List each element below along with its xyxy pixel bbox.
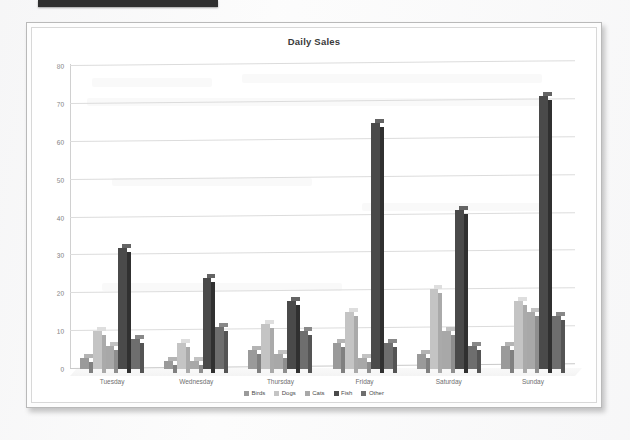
bar-slot: [164, 66, 177, 369]
bar-dogs-wednesday[interactable]: [177, 343, 186, 370]
x-axis-label: Tuesday: [70, 378, 154, 385]
bar-birds-saturday[interactable]: [417, 354, 426, 369]
bar-birds-friday[interactable]: [333, 343, 342, 370]
bar-cats-friday[interactable]: [358, 358, 367, 369]
bar-slot: [248, 66, 261, 369]
bar-birds-wednesday[interactable]: [164, 361, 173, 369]
bar-fish-thursday[interactable]: [287, 301, 296, 369]
bar-set: [248, 66, 312, 369]
legend-item-fish[interactable]: Fish: [334, 390, 353, 396]
legend-swatch-icon: [305, 391, 310, 396]
bar-face: [430, 289, 439, 369]
bar-slot: [215, 66, 228, 369]
bar-cats-wednesday[interactable]: [190, 361, 199, 369]
legend-item-birds[interactable]: Birds: [244, 390, 265, 396]
bar-other-sunday[interactable]: [552, 316, 561, 369]
bar-slot: [384, 66, 397, 369]
bar-dogs-thursday[interactable]: [261, 324, 270, 369]
bar-face: [261, 324, 270, 369]
bar-birds-tuesday[interactable]: [80, 358, 89, 369]
bar-set: [333, 66, 397, 369]
bar-group: Tuesday: [70, 66, 154, 369]
bar-set: [501, 66, 565, 369]
x-axis-label: Sunday: [491, 378, 575, 385]
bar-other-tuesday[interactable]: [131, 339, 140, 369]
bar-cats-tuesday[interactable]: [106, 346, 115, 369]
bar-face: [177, 343, 186, 370]
legend-label: Birds: [252, 390, 266, 396]
bar-dogs-friday[interactable]: [345, 312, 354, 369]
bar-other-saturday[interactable]: [468, 346, 477, 369]
bar-face: [514, 301, 523, 369]
x-axis-label: Saturday: [407, 378, 491, 385]
bar-face: [552, 316, 561, 369]
bar-slot: [106, 66, 119, 369]
bar-slot: [261, 66, 274, 369]
bar-group: Friday: [323, 66, 407, 369]
bar-face: [371, 123, 380, 369]
bar-dogs-saturday[interactable]: [430, 289, 439, 369]
bar-face: [118, 248, 127, 369]
y-axis-tick-label: 80: [57, 62, 64, 69]
legend-item-other[interactable]: Other: [361, 390, 384, 396]
bar-other-friday[interactable]: [384, 343, 393, 370]
bar-side: [308, 335, 312, 373]
bar-slot: [527, 66, 540, 369]
bar-slot: [177, 66, 190, 369]
y-axis-tick-label: 70: [57, 100, 64, 107]
bar-slot: [287, 66, 300, 369]
bar-slot: [345, 66, 358, 369]
bar-group: Thursday: [238, 66, 322, 369]
chart-plot-container: Daily Sales 01020304050607080 TuesdayWed…: [31, 27, 597, 403]
legend-label: Cats: [312, 390, 324, 396]
y-axis-tick-label: 40: [57, 214, 64, 221]
bar-cats-saturday[interactable]: [442, 331, 451, 369]
bar-face: [455, 210, 464, 369]
y-axis-tick-label: 50: [57, 176, 64, 183]
bar-face: [106, 346, 115, 369]
y-axis-tick-label: 10: [57, 327, 64, 334]
legend-swatch-icon: [274, 391, 279, 396]
bar-fish-wednesday[interactable]: [203, 278, 212, 369]
bar-birds-thursday[interactable]: [248, 350, 257, 369]
bar-slot: [501, 66, 514, 369]
bar-dogs-tuesday[interactable]: [93, 331, 102, 369]
chart-legend: BirdsDogsCatsFishOther: [32, 390, 596, 396]
bar-face: [190, 361, 199, 369]
bar-slot: [203, 66, 216, 369]
bar-slot: [190, 66, 203, 369]
top-redaction-bar: [38, 0, 218, 7]
bar-slot: [552, 66, 565, 369]
bar-other-wednesday[interactable]: [215, 327, 224, 369]
bar-fish-sunday[interactable]: [539, 96, 548, 369]
bar-fish-tuesday[interactable]: [118, 248, 127, 369]
bar-cats-sunday[interactable]: [527, 312, 536, 369]
legend-item-dogs[interactable]: Dogs: [274, 390, 296, 396]
bar-dogs-sunday[interactable]: [514, 301, 523, 369]
bar-group: Saturday: [407, 66, 491, 369]
legend-item-cats[interactable]: Cats: [305, 390, 325, 396]
chart-floor: [70, 368, 582, 376]
bar-group: Wednesday: [154, 66, 238, 369]
bar-side: [224, 331, 228, 373]
bar-birds-sunday[interactable]: [501, 346, 510, 369]
bar-cats-thursday[interactable]: [274, 354, 283, 369]
bar-other-thursday[interactable]: [300, 331, 309, 369]
legend-swatch-icon: [361, 391, 366, 396]
bar-face: [215, 327, 224, 369]
bar-slot: [539, 66, 552, 369]
y-axis-tick-label: 20: [57, 289, 64, 296]
bar-fish-friday[interactable]: [371, 123, 380, 369]
bar-slot: [514, 66, 527, 369]
bar-slot: [274, 66, 287, 369]
y-axis-tick-label: 0: [60, 365, 64, 372]
bar-face: [131, 339, 140, 369]
bar-face: [501, 346, 510, 369]
bar-slot: [333, 66, 346, 369]
bar-face: [442, 331, 451, 369]
bar-face: [468, 346, 477, 369]
bar-slot: [131, 66, 144, 369]
bar-fish-saturday[interactable]: [455, 210, 464, 369]
chart-title: Daily Sales: [32, 36, 596, 47]
bar-slot: [430, 66, 443, 369]
